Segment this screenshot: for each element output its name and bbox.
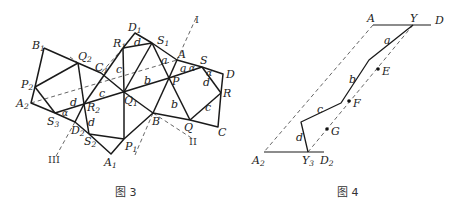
label-Q2: Q2 xyxy=(78,50,92,64)
label-C1: C1 xyxy=(95,61,108,75)
label-G: G xyxy=(331,125,340,138)
label-C: C xyxy=(218,126,227,139)
label-P1: P1 xyxy=(124,140,137,154)
seg-label-alpha-3: α xyxy=(62,108,68,118)
label-B1: B1 xyxy=(31,39,45,53)
seg-label-b-lower: b xyxy=(171,98,178,111)
seg-label-a-mid: a xyxy=(180,62,187,75)
label-B: B xyxy=(151,115,160,128)
label-S3: S3 xyxy=(47,115,60,129)
label-A1: A1 xyxy=(103,156,117,170)
seg-label-b-fig4: b xyxy=(349,73,356,86)
label-D: D xyxy=(225,68,235,81)
figure-3: D1 R1 S1 A S D R C Q B P Q1 P1 A1 S2 D2 … xyxy=(15,14,235,199)
figure-4-caption: 图 4 xyxy=(337,186,359,199)
seg-label-d-top: d xyxy=(134,36,141,49)
label-Q: Q xyxy=(184,121,193,134)
seg-label-c-right: c xyxy=(205,101,211,114)
seg-label-c-fig4: c xyxy=(317,103,323,116)
label-D2-fig4: D2 xyxy=(319,154,334,168)
seg-label-a-fig4: a xyxy=(384,34,391,47)
label-P2: P2 xyxy=(20,78,33,92)
label-A2-fig4: A2 xyxy=(251,154,265,168)
label-D-fig4: D xyxy=(434,14,444,27)
seg-label-b-mid: b xyxy=(144,74,151,87)
line-P2-Q2 xyxy=(35,63,78,87)
seg-label-d-fig4: d xyxy=(296,131,303,144)
diagram-canvas: D1 R1 S1 A S D R C Q B P Q1 P1 A1 S2 D2 … xyxy=(0,0,461,212)
label-S: S xyxy=(200,54,208,67)
label-D1: D1 xyxy=(127,21,142,35)
line-P-B xyxy=(153,78,169,113)
label-S1: S1 xyxy=(157,34,169,48)
axis-II-lower-line xyxy=(135,113,153,155)
seg-label-alpha-1: α xyxy=(189,63,195,73)
axis-label-I: I xyxy=(195,14,199,25)
label-R1: R1 xyxy=(112,37,126,51)
axis-label-III: III xyxy=(48,154,60,165)
label-Y3: Y3 xyxy=(302,154,314,168)
seg-label-d-left: d xyxy=(70,96,77,109)
figure-4: A Y D E F G A2 Y3 D2 a b c d 图 4 xyxy=(251,12,444,199)
point-G xyxy=(325,127,329,131)
line-R1-Q1 xyxy=(123,48,124,92)
dash-A-A2 xyxy=(264,25,373,152)
point-E xyxy=(376,67,380,71)
seg-label-a-top: a xyxy=(161,54,168,67)
seg-label-c-left: c xyxy=(116,63,122,76)
label-E: E xyxy=(381,65,390,78)
seg-label-d-right: d xyxy=(203,76,210,89)
seg-label-d-lower: d xyxy=(88,116,95,129)
label-D2: D2 xyxy=(70,124,85,138)
figure-3-caption: 图 3 xyxy=(115,186,137,199)
seg-label-c-mid: c xyxy=(99,87,105,100)
label-A: A xyxy=(177,48,186,61)
line-Q2-R2 xyxy=(78,63,84,104)
label-R: R xyxy=(222,87,231,100)
label-P: P xyxy=(171,75,180,88)
label-S2: S2 xyxy=(84,135,97,149)
label-A2: A2 xyxy=(15,97,29,111)
label-Q1: Q1 xyxy=(124,94,138,108)
point-F xyxy=(347,99,351,103)
axis-label-II: II xyxy=(189,136,197,147)
label-A-fig4: A xyxy=(366,12,375,25)
label-F: F xyxy=(352,97,361,110)
label-Y: Y xyxy=(410,12,419,25)
label-R2: R2 xyxy=(86,101,100,115)
dash-Y-Y3 xyxy=(308,25,413,152)
